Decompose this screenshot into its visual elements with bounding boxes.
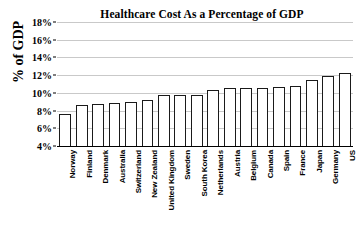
y-tick-label: 14% <box>16 52 52 63</box>
x-tick-label: Switzerland <box>134 150 143 193</box>
plot-area: 18%16%14%12%10%8%6%4% NorwayFinlandDenma… <box>57 22 353 146</box>
y-tick-mark <box>53 146 56 147</box>
bar <box>109 103 121 146</box>
chart-container: Healthcare Cost As a Percentage of GDP %… <box>0 0 361 240</box>
y-tick-label: 4% <box>16 141 52 152</box>
bar <box>273 87 285 146</box>
bar <box>125 102 137 146</box>
y-tick-label: 10% <box>16 87 52 98</box>
axis-baseline <box>57 146 353 147</box>
y-tick-mark <box>53 57 56 58</box>
bar <box>142 100 154 146</box>
bar <box>240 88 252 146</box>
bar <box>207 90 219 146</box>
x-tick-label: Austria <box>233 150 242 177</box>
y-tick-label: 12% <box>16 70 52 81</box>
bar <box>158 95 170 146</box>
bar <box>59 114 71 146</box>
x-tick-label: Finland <box>85 150 94 178</box>
bar <box>257 88 269 146</box>
x-tick-label: United Kingdom <box>167 150 176 210</box>
x-tick-label: US <box>348 150 357 161</box>
x-tick-label: Japan <box>315 150 324 173</box>
x-tick-label: Denmark <box>101 150 110 184</box>
y-tick-mark <box>53 92 56 93</box>
bar <box>224 88 236 146</box>
x-tick-label: France <box>298 150 307 176</box>
y-tick-mark <box>53 128 56 129</box>
x-tick-label: Canada <box>266 150 275 178</box>
x-tick-label: Norway <box>68 150 77 178</box>
bar <box>290 86 302 146</box>
y-tick-label: 6% <box>16 123 52 134</box>
x-tick-label: Australia <box>118 150 127 183</box>
y-tick-mark <box>53 110 56 111</box>
x-tick-label: Netherlands <box>216 150 225 195</box>
y-tick-label: 16% <box>16 34 52 45</box>
y-tick-mark <box>53 39 56 40</box>
x-tick-label: Germany <box>331 150 340 184</box>
bar <box>191 95 203 146</box>
y-tick-mark <box>53 22 56 23</box>
bar <box>76 105 88 146</box>
x-tick-label: South Korea <box>200 150 209 196</box>
x-tick-label: Belgium <box>249 150 258 181</box>
bar <box>322 76 334 146</box>
x-tick-label: Sweden <box>183 150 192 180</box>
bar <box>174 95 186 146</box>
y-tick-mark <box>53 75 56 76</box>
bar-series <box>57 22 353 146</box>
bar <box>339 73 351 147</box>
bar <box>92 104 104 147</box>
y-tick-label: 8% <box>16 105 52 116</box>
y-tick-label: 18% <box>16 17 52 28</box>
chart-title: Healthcare Cost As a Percentage of GDP <box>62 8 342 20</box>
bar <box>306 80 318 146</box>
x-tick-label: New Zealand <box>150 150 159 198</box>
x-tick-label: Spain <box>282 150 291 171</box>
